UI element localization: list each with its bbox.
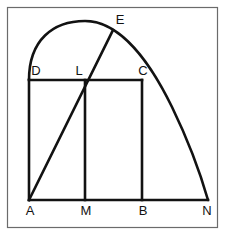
vertex-label-e: E bbox=[116, 12, 125, 27]
geometry-canvas: D L C E A M B N bbox=[0, 0, 225, 235]
vertex-label-c: C bbox=[138, 63, 147, 78]
vertex-label-d: D bbox=[31, 63, 40, 78]
vertex-label-l: L bbox=[75, 63, 82, 78]
vertex-label-b: B bbox=[139, 203, 148, 218]
vertex-label-a: A bbox=[26, 203, 35, 218]
vertex-label-m: M bbox=[81, 203, 92, 218]
vertex-label-n: N bbox=[202, 203, 211, 218]
geometry-figure: D L C E A M B N bbox=[0, 0, 225, 235]
